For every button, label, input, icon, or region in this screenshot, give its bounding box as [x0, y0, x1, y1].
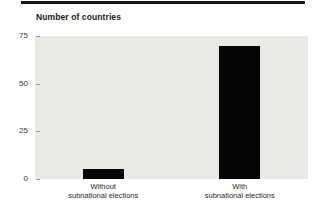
x-category-label: Without subnational elections — [33, 182, 173, 200]
y-tick-mark — [36, 179, 40, 180]
y-tick-label: 75 — [8, 32, 28, 40]
bar-with-subnational-elections — [219, 46, 260, 179]
figure-canvas: { "figure": { "title": "Number of countr… — [0, 0, 316, 215]
y-tick-label: 50 — [8, 80, 28, 88]
y-tick-mark — [36, 131, 40, 132]
chart-title: Number of countries — [36, 12, 121, 22]
bar-without-subnational-elections — [83, 169, 124, 179]
y-tick-mark — [36, 84, 40, 85]
y-tick-label: 0 — [8, 175, 28, 183]
top-rule-divider — [21, 1, 305, 4]
x-category-label: With subnational elections — [170, 182, 310, 200]
plot-area — [35, 36, 308, 179]
y-tick-mark — [36, 36, 40, 37]
y-tick-label: 25 — [8, 127, 28, 135]
